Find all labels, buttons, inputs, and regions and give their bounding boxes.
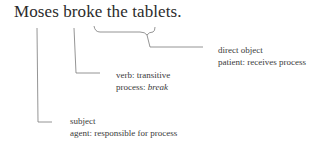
object-description: patient: receives process bbox=[218, 56, 306, 68]
verb-process-value: break bbox=[148, 82, 168, 92]
verb-connector bbox=[74, 28, 100, 73]
subject-connector bbox=[37, 28, 52, 122]
object-annotation: direct object patient: receives process bbox=[218, 44, 306, 68]
verb-process-label: process: bbox=[116, 82, 148, 92]
object-connector bbox=[147, 35, 203, 47]
object-role: direct object bbox=[218, 44, 306, 56]
verb-process: process: break bbox=[116, 81, 170, 93]
verb-annotation: verb: transitive process: break bbox=[116, 69, 170, 93]
subject-role: subject bbox=[70, 115, 177, 127]
subject-description: agent: responsible for process bbox=[70, 127, 177, 139]
verb-role: verb: transitive bbox=[116, 69, 170, 81]
object-brace bbox=[94, 26, 155, 35]
subject-annotation: subject agent: responsible for process bbox=[70, 115, 177, 139]
